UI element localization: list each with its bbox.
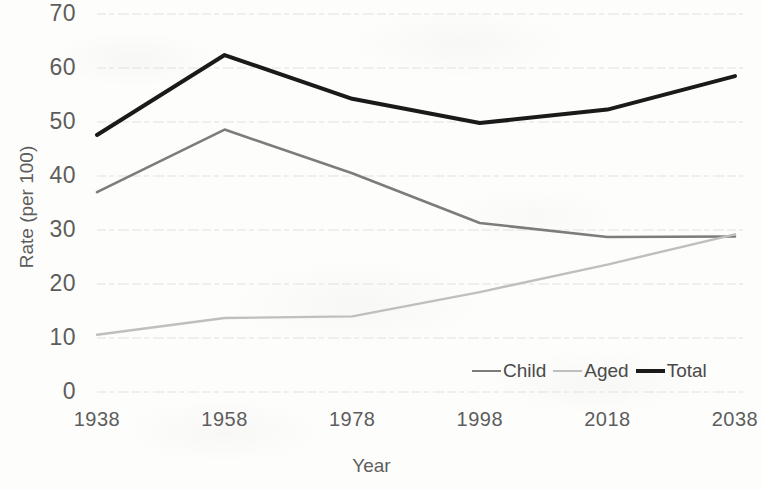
chart-legend: ChildAgedTotal	[472, 361, 714, 380]
series-line-child	[97, 130, 735, 237]
y-axis-title: Rate (per 100)	[16, 117, 38, 297]
y-tick-label: 60	[49, 56, 76, 79]
y-tick-label: 10	[49, 326, 76, 349]
legend-swatch-aged-icon	[553, 370, 582, 372]
legend-label: Total	[667, 361, 714, 380]
x-tick-label: 2018	[557, 409, 657, 429]
legend-entry-aged: Aged	[553, 361, 635, 380]
y-tick-label: 20	[49, 272, 76, 295]
legend-label: Child	[503, 361, 553, 380]
legend-label: Aged	[584, 361, 635, 380]
legend-entry-child: Child	[472, 361, 553, 380]
y-tick-label: 50	[49, 110, 76, 133]
legend-entry-total: Total	[636, 361, 714, 380]
x-tick-label: 1998	[430, 409, 530, 429]
y-tick-label: 70	[49, 2, 76, 25]
legend-swatch-child-icon	[472, 370, 501, 372]
x-tick-label: 2038	[685, 409, 762, 429]
legend-swatch-total-icon	[636, 369, 665, 373]
x-tick-label: 1978	[302, 409, 402, 429]
series-line-total	[97, 55, 735, 135]
y-tick-label: 30	[49, 218, 76, 241]
x-axis-title: Year	[0, 455, 743, 477]
y-tick-label: 40	[49, 164, 76, 187]
x-tick-label: 1938	[47, 409, 147, 429]
x-tick-label: 1958	[175, 409, 275, 429]
y-tick-label: 0	[63, 380, 76, 403]
